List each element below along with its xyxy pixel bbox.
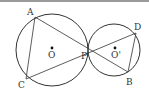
label-p: P [81, 51, 87, 61]
label-b: B [126, 77, 133, 87]
label-o-prime: O' [111, 50, 121, 60]
segment-ab [35, 17, 128, 72]
center-dot-o-prime [114, 47, 117, 50]
label-d: D [134, 22, 141, 32]
label-a: A [26, 7, 34, 17]
center-dot-o [51, 47, 54, 50]
segment-ac [26, 17, 35, 79]
geometry-diagram: A C P D B O O' [0, 0, 149, 93]
label-c: C [18, 80, 25, 90]
label-o: O [48, 50, 55, 60]
